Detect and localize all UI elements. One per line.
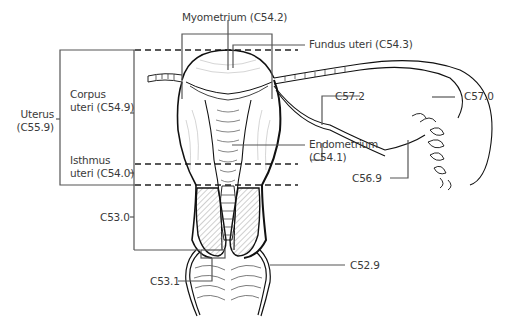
label-c53-0: C53.0: [100, 211, 130, 224]
section-dashed-lines: [135, 50, 298, 185]
label-endometrium-line2: (C54.1): [309, 151, 347, 164]
label-fundus-uteri: Fundus uteri (C54.3): [309, 38, 413, 51]
label-c53-1: C53.1: [150, 275, 180, 288]
label-c57-0: C57.0: [464, 90, 494, 103]
label-corpus-line1: Corpus: [70, 88, 106, 101]
vagina: [186, 250, 271, 316]
label-myometrium: Myometrium (C54.2): [182, 11, 287, 24]
label-isthmus-line2: uteri (C54.0): [70, 167, 134, 180]
label-c57-2: C57.2: [335, 90, 365, 103]
label-uterus-line2: (C55.9): [8, 121, 54, 134]
label-uterus-line1: Uterus: [20, 108, 54, 121]
cervix: [196, 186, 260, 256]
label-endometrium-line1: Endometrium: [309, 138, 378, 151]
label-isthmus-line1: Isthmus: [70, 154, 110, 167]
label-c56-9: C56.9: [352, 172, 382, 185]
fimbriae: [412, 113, 451, 190]
right-tube-ovary: [274, 61, 492, 190]
label-corpus-line2: uteri (C54.9): [70, 101, 134, 114]
label-c52-9: C52.9: [350, 259, 380, 272]
left-tube: [148, 74, 182, 82]
uterus-anatomy-diagram: Myometrium (C54.2) Fundus uteri (C54.3) …: [0, 0, 512, 328]
